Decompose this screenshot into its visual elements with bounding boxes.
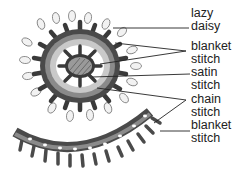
- label-chain-stitch: chain stitch: [191, 93, 221, 119]
- label-lazy-daisy: lazy daisy: [191, 7, 220, 33]
- label-text: daisy: [191, 20, 220, 33]
- satin-stitch-center: [68, 57, 92, 75]
- label-text: stitch: [191, 132, 231, 145]
- label-text: stitch: [191, 79, 220, 92]
- label-blanket-stitch-inner: blanket stitch: [191, 40, 231, 66]
- label-blanket-stitch-border: blanket stitch: [191, 119, 231, 145]
- curved-band: [15, 112, 160, 166]
- label-satin-stitch: satin stitch: [191, 66, 220, 92]
